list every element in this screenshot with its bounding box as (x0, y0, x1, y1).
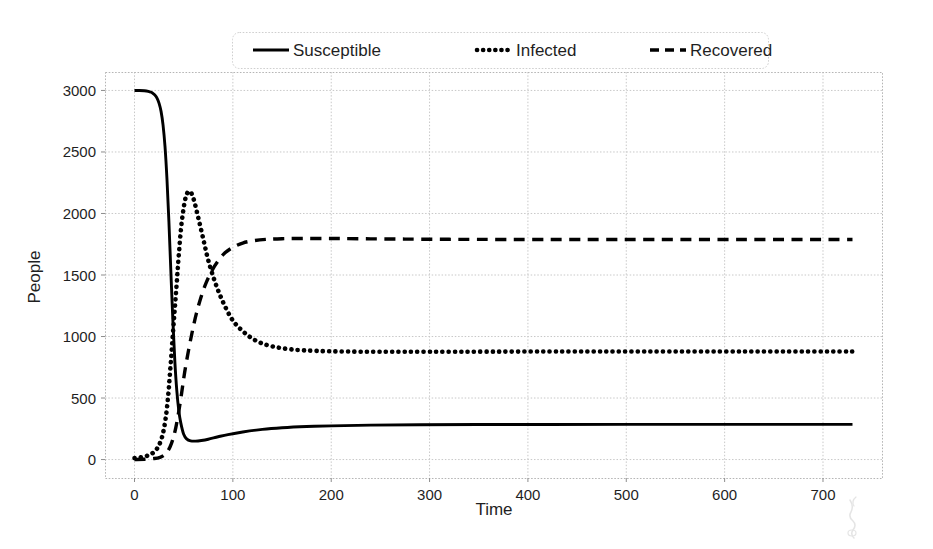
y-tick-label: 500 (71, 390, 96, 407)
y-tick-label: 1000 (63, 328, 96, 345)
y-tick-label: 2000 (63, 205, 96, 222)
x-tick-label: 0 (130, 486, 138, 503)
chart-legend: SusceptibleInfectedRecovered (233, 33, 773, 69)
chart-background (0, 0, 933, 549)
x-tick-label: 100 (220, 486, 245, 503)
legend-label: Infected (516, 41, 577, 60)
x-axis-title: Time (475, 500, 512, 519)
x-tick-label: 700 (810, 486, 835, 503)
legend-label: Recovered (690, 41, 772, 60)
legend-label: Susceptible (293, 41, 381, 60)
y-tick-label: 0 (88, 451, 96, 468)
y-tick-label: 3000 (63, 82, 96, 99)
x-tick-label: 600 (712, 486, 737, 503)
y-tick-label: 1500 (63, 267, 96, 284)
y-axis-title: People (25, 251, 44, 304)
x-tick-label: 500 (614, 486, 639, 503)
x-tick-label: 300 (417, 486, 442, 503)
y-tick-label: 2500 (63, 143, 96, 160)
x-tick-label: 400 (515, 486, 540, 503)
sir-line-chart: 050010001500200025003000 010020030040050… (0, 0, 933, 549)
x-tick-label: 200 (319, 486, 344, 503)
chart-figure: 050010001500200025003000 010020030040050… (0, 0, 933, 549)
